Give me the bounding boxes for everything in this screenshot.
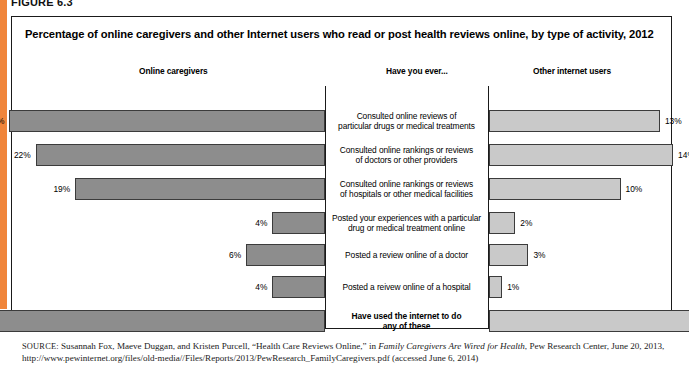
figure-box: Percentage of online caregivers and othe…: [11, 16, 672, 329]
bar-other-users: [489, 212, 515, 234]
bar-other-users: [489, 178, 621, 200]
row-label-line: Posted your experiences with a particula…: [326, 213, 487, 224]
row-label-line: any of these: [326, 321, 487, 332]
bar-caregivers: [36, 144, 325, 166]
value-label-caregivers: 24%: [0, 117, 4, 125]
bar-other-users: [489, 276, 502, 298]
row-label-line: Posted a reivew online of a hospital: [326, 282, 487, 293]
column-header-question: Have you ever...: [386, 66, 448, 76]
value-label-caregivers: 6%: [229, 251, 241, 259]
bar-other-users: [489, 310, 689, 332]
bar-caregivers: [75, 178, 325, 200]
row-label: Consulted online reviews ofparticular dr…: [326, 111, 487, 132]
row-label-line: Posted a review online of a doctor: [326, 250, 487, 261]
bar-caregivers: [9, 110, 325, 132]
row-label-line: of hospitals or other medical facilities: [326, 189, 487, 200]
row-label: Consulted online rankings or reviewsof h…: [326, 179, 487, 200]
bar-other-users: [489, 244, 528, 266]
value-label-other-users: 13%: [665, 117, 682, 125]
row-label-line: drug or medical treatment online: [326, 223, 487, 234]
row-label-line: particular drugs or medical treatments: [326, 121, 487, 132]
value-label-other-users: 10%: [626, 185, 643, 193]
source-note: SOURCE: Susannah Fox, Maeve Duggan, and …: [22, 341, 670, 364]
value-label-caregivers: 22%: [14, 151, 31, 159]
row-label-line: Have used the internet to do: [326, 311, 487, 322]
bar-other-users: [489, 110, 660, 132]
orange-edge-strip: [0, 0, 7, 309]
row-label: Posted a review online of a doctor: [326, 250, 487, 261]
source-title-italic: Family Caregivers Are Wired for Health: [378, 341, 525, 351]
row-label: Posted your experiences with a particula…: [326, 213, 487, 234]
row-label-line: of doctors or other providers: [326, 155, 487, 166]
bar-other-users: [489, 144, 673, 166]
bar-caregivers: [246, 244, 325, 266]
row-label-line: Consulted online reviews of: [326, 111, 487, 122]
bar-caregivers: [272, 276, 325, 298]
column-header-other-users: Other internet users: [533, 66, 611, 76]
value-label-caregivers: 4%: [255, 283, 267, 291]
value-label-other-users: 14%: [678, 151, 689, 159]
bar-caregivers: [272, 212, 325, 234]
source-text-1: Susannah Fox, Maeve Duggan, and Kristen …: [59, 341, 378, 351]
row-label-line: Consulted online rankings or reviews: [326, 145, 487, 156]
row-label: Posted a reivew online of a hospital: [326, 282, 487, 293]
value-label-other-users: 2%: [520, 219, 532, 227]
value-label-other-users: 3%: [533, 251, 545, 259]
source-prefix: SOURCE:: [22, 342, 59, 351]
value-label-caregivers: 4%: [255, 219, 267, 227]
row-label-line: Consulted online rankings or reviews: [326, 179, 487, 190]
column-header-caregivers: Online caregivers: [139, 66, 208, 76]
value-label-other-users: 1%: [507, 283, 519, 291]
plot-area: 24%13%Consulted online reviews ofparticu…: [12, 86, 671, 261]
row-label: Have used the internet to doany of these: [326, 311, 487, 332]
row-label: Consulted online rankings or reviewsof d…: [326, 145, 487, 166]
value-label-caregivers: 19%: [53, 185, 70, 193]
bar-caregivers: [0, 310, 325, 332]
chart-title: Percentage of online caregivers and othe…: [25, 28, 654, 40]
figure-label: FIGURE 6.3: [11, 0, 73, 8]
